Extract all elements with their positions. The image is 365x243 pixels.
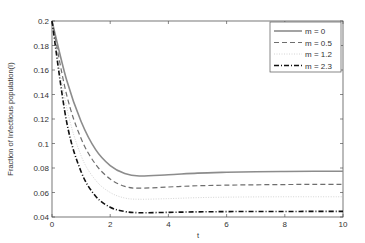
y-tick-label: 0.16: [33, 66, 49, 75]
x-tick-label: 10: [339, 220, 348, 229]
x-tick-label: 4: [166, 220, 171, 229]
x-axis-label: t: [197, 231, 200, 240]
legend-entry: m = 2.3: [305, 62, 332, 71]
y-tick-label: 0.08: [33, 164, 49, 173]
y-tick-label: 0.06: [33, 189, 49, 198]
y-tick-label: 0.12: [33, 115, 49, 124]
y-tick-label: 0.2: [38, 17, 50, 26]
y-tick-label: 0.18: [33, 42, 49, 51]
y-axis-label: Fraction of Infectious population(I): [6, 62, 15, 176]
x-tick-label: 0: [50, 220, 55, 229]
y-tick-label: 0.04: [33, 213, 49, 222]
y-tick-label: 0.1: [38, 140, 50, 149]
y-tick-label: 0.14: [33, 91, 49, 100]
legend: m = 0m = 0.5m = 1.2m = 2.3: [270, 22, 341, 72]
legend-entry: m = 1.2: [305, 50, 332, 59]
line-chart: 0.040.060.080.10.120.140.160.180.2 02468…: [0, 0, 365, 243]
legend-entry: m = 0: [305, 27, 326, 36]
x-tick-label: 2: [108, 220, 113, 229]
x-tick-label: 6: [224, 220, 229, 229]
x-tick-label: 8: [283, 220, 288, 229]
legend-entry: m = 0.5: [305, 39, 332, 48]
